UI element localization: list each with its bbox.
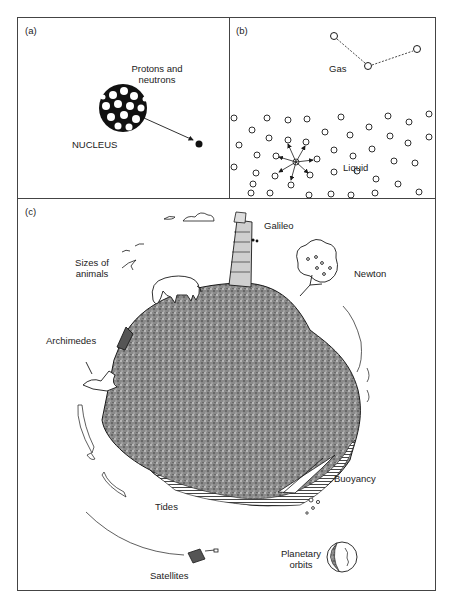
leaning-tower-icon — [229, 212, 258, 287]
liquid-molecules — [231, 111, 432, 198]
emission-arrow — [144, 118, 193, 140]
label-animals-line: animals — [70, 268, 114, 279]
label-gas: Gas — [329, 63, 346, 74]
earth-globe — [102, 283, 360, 506]
satellite-icon — [188, 549, 218, 563]
nucleus-icon — [99, 84, 148, 132]
panel-b-tag: (b) — [236, 25, 248, 36]
label-sizes-line: Sizes of — [70, 257, 114, 268]
label-liquid: Liquid — [343, 162, 368, 173]
diagram-artwork — [0, 0, 456, 608]
label-sizes-of-animals: Sizes of animals — [70, 257, 114, 279]
label-newton: Newton — [354, 268, 386, 279]
birds-icon — [122, 244, 144, 270]
gas-paths — [337, 39, 413, 65]
moon-icon — [327, 542, 357, 572]
label-planetary-line: Planetary — [276, 548, 326, 559]
label-buoyancy: Buoyancy — [334, 473, 376, 484]
label-neutrons-line: neutrons — [125, 74, 189, 85]
label-satellites: Satellites — [150, 570, 189, 581]
panel-c-tag: (c) — [25, 206, 36, 217]
label-archimedes: Archimedes — [46, 335, 96, 346]
particle-icon — [196, 141, 203, 148]
label-nucleus: NUCLEUS — [72, 139, 117, 150]
label-protons-neutrons: Protons and neutrons — [125, 63, 189, 85]
clouds-icon — [164, 213, 214, 221]
label-protons-line: Protons and — [125, 63, 189, 74]
label-tides: Tides — [155, 501, 178, 512]
label-planetary-orbits: Planetary orbits — [276, 548, 326, 570]
label-galileo: Galileo — [264, 220, 294, 231]
panel-a-tag: (a) — [25, 25, 37, 36]
apple-tree-icon — [297, 239, 338, 296]
satellite-orbit — [86, 512, 184, 555]
label-orbits-line: orbits — [276, 559, 326, 570]
